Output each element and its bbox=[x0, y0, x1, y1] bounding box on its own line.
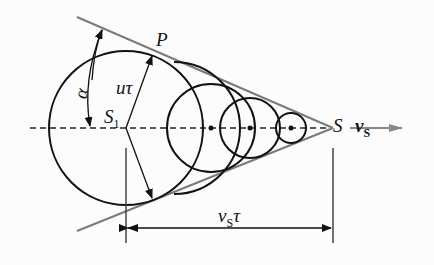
label-S1: S1 bbox=[104, 107, 120, 130]
center-dot-4 bbox=[289, 126, 294, 131]
mach-cone-diagram: P α uτ S1 S vS vSτ bbox=[0, 0, 434, 265]
center-dot-3 bbox=[248, 126, 253, 131]
label-u-tau: uτ bbox=[116, 78, 132, 97]
label-vS: vS bbox=[355, 116, 370, 139]
radius-arrow-down bbox=[126, 128, 152, 198]
label-vS-tau: vSτ bbox=[218, 206, 240, 229]
label-P: P bbox=[156, 30, 168, 49]
center-dot-2 bbox=[209, 126, 214, 131]
alpha-arc bbox=[88, 30, 102, 126]
label-S: S bbox=[333, 116, 343, 135]
